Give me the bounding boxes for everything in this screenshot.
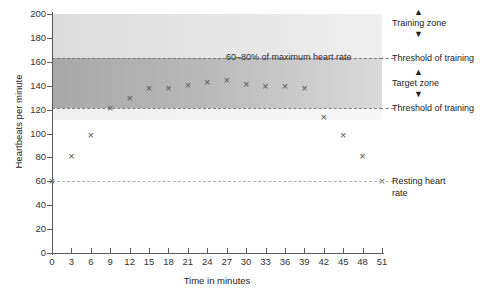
training-zone-arrow-up: ▲: [414, 8, 423, 16]
x-tick: [52, 248, 53, 253]
x-tick-label: 45: [338, 256, 349, 267]
target-zone-arrow-down: ▼: [414, 90, 423, 98]
x-tick: [343, 248, 344, 253]
y-tick: [47, 110, 52, 111]
y-axis-line: [52, 12, 53, 255]
cut-off-title: [0, 0, 480, 2]
x-tick-label: 9: [108, 256, 113, 267]
x-tick-label: 36: [280, 256, 291, 267]
y-tick-label: 180: [4, 32, 46, 43]
zone-annotation: 60–80% of maximum heart rate: [226, 52, 352, 62]
x-tick-label: 21: [183, 256, 194, 267]
x-tick: [285, 248, 286, 253]
x-tick: [130, 248, 131, 253]
x-tick: [304, 248, 305, 253]
chart-figure: 60–80% of maximum heart rate ×××××××××××…: [0, 0, 480, 298]
data-point: ×: [163, 83, 174, 94]
target-zone-band: [52, 58, 382, 108]
x-tick-label: 39: [299, 256, 310, 267]
y-tick: [47, 229, 52, 230]
data-point: ×: [241, 79, 252, 90]
data-point: ×: [357, 151, 368, 162]
x-tick-label: 6: [88, 256, 93, 267]
data-point: ×: [66, 151, 77, 162]
x-axis-line: [50, 253, 384, 254]
y-axis-title: Heartbeats per minute: [13, 52, 24, 192]
y-tick: [47, 134, 52, 135]
y-tick: [47, 86, 52, 87]
data-point: ×: [202, 77, 213, 88]
x-tick: [149, 248, 150, 253]
legend-target-zone: Target zone: [392, 78, 439, 88]
y-tick-label: 60: [4, 175, 46, 186]
x-tick: [324, 248, 325, 253]
y-tick: [47, 181, 52, 182]
lower-threshold-line: [52, 108, 382, 109]
legend-training-zone: Training zone: [392, 18, 446, 28]
legend-resting-rate-line1: Resting heart: [392, 176, 446, 186]
data-point: ×: [144, 83, 155, 94]
x-tick: [382, 248, 383, 253]
x-tick-label: 51: [377, 256, 388, 267]
x-tick: [91, 248, 92, 253]
x-tick-label: 3: [69, 256, 74, 267]
data-point: ×: [221, 75, 232, 86]
x-tick-label: 12: [124, 256, 135, 267]
x-tick-label: 48: [357, 256, 368, 267]
data-point: ×: [182, 80, 193, 91]
y-tick: [47, 253, 52, 254]
y-tick: [47, 14, 52, 15]
y-tick-label: 20: [4, 223, 46, 234]
x-axis-title: Time in minutes: [52, 275, 382, 286]
below-target-band: [52, 108, 382, 120]
data-point: ×: [318, 112, 329, 123]
y-tick: [47, 38, 52, 39]
x-tick: [363, 248, 364, 253]
data-point: ×: [124, 93, 135, 104]
y-tick: [47, 157, 52, 158]
x-tick-label: 42: [318, 256, 329, 267]
x-tick-label: 0: [49, 256, 54, 267]
x-tick: [246, 248, 247, 253]
x-tick: [266, 248, 267, 253]
legend-threshold-lower: Threshold of training: [392, 103, 474, 113]
y-tick-label: 40: [4, 199, 46, 210]
x-tick: [110, 248, 111, 253]
y-tick-label: 200: [4, 8, 46, 19]
x-tick: [227, 248, 228, 253]
data-point: ×: [260, 81, 271, 92]
x-tick-label: 18: [163, 256, 174, 267]
legend-threshold-upper: Threshold of training: [392, 53, 474, 63]
y-tick-label: 100: [4, 128, 46, 139]
data-point: ×: [85, 130, 96, 141]
resting-heart-rate-line: [52, 181, 382, 182]
x-tick: [168, 248, 169, 253]
data-point: ×: [279, 81, 290, 92]
x-tick: [207, 248, 208, 253]
y-tick: [47, 62, 52, 63]
data-point: ×: [338, 130, 349, 141]
y-tick-label: 0: [4, 247, 46, 258]
training-zone-arrow-down: ▼: [414, 30, 423, 38]
x-tick-label: 30: [241, 256, 252, 267]
x-tick-label: 33: [260, 256, 271, 267]
x-tick-label: 15: [144, 256, 155, 267]
x-tick-label: 24: [202, 256, 213, 267]
x-tick: [71, 248, 72, 253]
target-zone-arrow-up: ▲: [414, 68, 423, 76]
y-tick-label: 120: [4, 104, 46, 115]
plot-area: 60–80% of maximum heart rate ×××××××××××…: [52, 14, 382, 253]
y-tick-label: 160: [4, 56, 46, 67]
y-tick-label: 80: [4, 151, 46, 162]
x-tick: [188, 248, 189, 253]
data-point: ×: [105, 103, 116, 114]
data-point: ×: [299, 83, 310, 94]
y-tick-label: 140: [4, 80, 46, 91]
x-tick-label: 27: [221, 256, 232, 267]
legend-resting-rate-line2: rate: [392, 188, 408, 198]
y-tick: [47, 205, 52, 206]
